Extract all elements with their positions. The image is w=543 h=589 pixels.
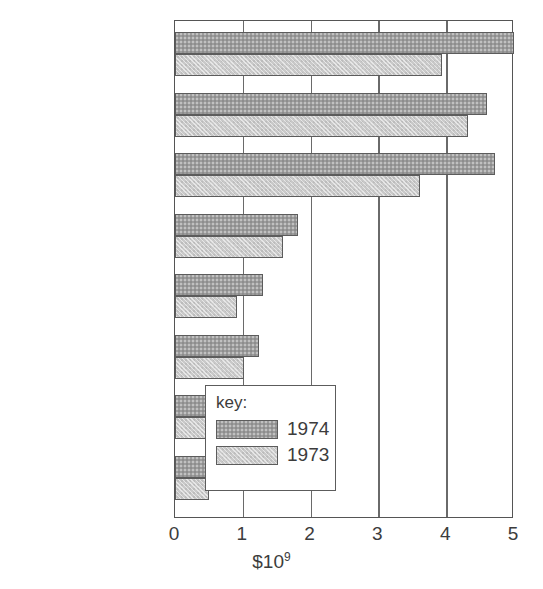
bar-1973 bbox=[175, 478, 209, 500]
bar-1973 bbox=[175, 236, 283, 258]
x-tick-label: 0 bbox=[154, 523, 194, 545]
bar-1973 bbox=[175, 296, 237, 318]
bar-1974 bbox=[175, 153, 495, 175]
x-tick-label: 1 bbox=[222, 523, 262, 545]
bar-1973 bbox=[175, 115, 468, 137]
legend-label-1974: 1974 bbox=[287, 418, 329, 440]
bar-chart: soybeans and productswheat and flourfeed… bbox=[0, 0, 543, 589]
bar-1974 bbox=[175, 32, 514, 54]
x-tick-label: 2 bbox=[290, 523, 330, 545]
x-axis-title: $109 bbox=[0, 550, 543, 573]
x-axis-title-exponent: 9 bbox=[284, 550, 291, 564]
legend-entry: 1973 bbox=[216, 444, 335, 466]
x-tick-label: 5 bbox=[493, 523, 533, 545]
bar-group bbox=[175, 32, 512, 76]
x-tick-label: 3 bbox=[357, 523, 397, 545]
bar-group bbox=[175, 153, 512, 197]
bar-1974 bbox=[175, 335, 259, 357]
bar-group bbox=[175, 274, 512, 318]
chart-legend: key: 19741973 bbox=[205, 385, 336, 491]
bar-group bbox=[175, 93, 512, 137]
legend-entries: 19741973 bbox=[216, 418, 335, 466]
legend-entry: 1974 bbox=[216, 418, 335, 440]
bar-group bbox=[175, 214, 512, 258]
bar-1973 bbox=[175, 54, 442, 76]
legend-swatch-1974 bbox=[216, 420, 278, 439]
legend-label-1973: 1973 bbox=[287, 444, 329, 466]
bar-1974 bbox=[175, 274, 263, 296]
legend-title: key: bbox=[216, 393, 335, 413]
bar-1973 bbox=[175, 175, 420, 197]
legend-swatch-1973 bbox=[216, 446, 278, 465]
bar-1973 bbox=[175, 357, 244, 379]
x-axis-title-base: $10 bbox=[252, 551, 284, 572]
x-tick-label: 4 bbox=[425, 523, 465, 545]
bar-1974 bbox=[175, 93, 487, 115]
bar-group bbox=[175, 335, 512, 379]
bar-1974 bbox=[175, 214, 298, 236]
